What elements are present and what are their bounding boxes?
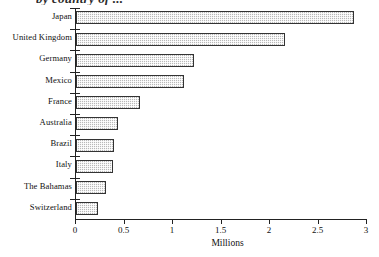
x-axis-title: Millions — [0, 238, 379, 248]
y-axis-tick — [70, 178, 80, 179]
y-axis-tick — [70, 8, 80, 9]
bar — [76, 33, 285, 46]
x-axis-tick-label: 2 — [249, 225, 289, 235]
bar-row: Brazil — [0, 135, 379, 156]
bar — [76, 11, 354, 24]
x-axis-tick — [75, 219, 76, 224]
y-axis-tick — [70, 93, 80, 94]
bar — [76, 96, 140, 109]
y-axis-tick — [70, 114, 80, 115]
bar-row: The Bahamas — [0, 178, 379, 199]
x-axis-title-label: Millions — [211, 238, 243, 248]
x-axis-tick — [318, 219, 319, 224]
bar — [76, 117, 118, 130]
y-axis-tick — [70, 135, 80, 136]
bar-row: Mexico — [0, 72, 379, 93]
category-label: Germany — [0, 53, 72, 64]
bar — [76, 54, 194, 67]
chart-title: by country of ... — [36, 0, 336, 5]
category-label: Switzerland — [0, 202, 72, 213]
bar-row: Italy — [0, 156, 379, 177]
x-axis-tick-label: 1.5 — [201, 225, 241, 235]
category-label: Australia — [0, 117, 72, 128]
bar — [76, 139, 114, 152]
bar-row: Australia — [0, 114, 379, 135]
bar-row: United Kingdom — [0, 29, 379, 50]
category-label: Japan — [0, 11, 72, 22]
x-axis-tick-label: 2.5 — [298, 225, 338, 235]
bar — [76, 75, 184, 88]
bar — [76, 160, 113, 173]
bar-row: France — [0, 93, 379, 114]
y-axis-tick — [70, 199, 80, 200]
bar-chart: by country of ... JapanUnited KingdomGer… — [0, 0, 379, 257]
x-axis-tick-label: 1 — [152, 225, 192, 235]
y-axis-tick — [70, 72, 80, 73]
x-axis-tick-label: 0.5 — [104, 225, 144, 235]
plot-area: JapanUnited KingdomGermanyMexicoFranceAu… — [0, 8, 379, 220]
bar-row: Switzerland — [0, 199, 379, 220]
category-label: France — [0, 96, 72, 107]
bar-row: Japan — [0, 8, 379, 29]
x-axis-tick — [221, 219, 222, 224]
bar — [76, 202, 98, 215]
y-axis-tick — [70, 50, 80, 51]
y-axis-tick — [70, 29, 80, 30]
x-axis-tick-label: 3 — [346, 225, 379, 235]
x-axis-tick — [366, 219, 367, 224]
category-label: United Kingdom — [0, 32, 72, 43]
category-label: Mexico — [0, 75, 72, 86]
category-label: The Bahamas — [0, 181, 72, 192]
x-axis-tick — [269, 219, 270, 224]
x-axis-tick — [172, 219, 173, 224]
y-axis-tick — [70, 156, 80, 157]
source-note — [173, 252, 373, 257]
category-label: Italy — [0, 159, 72, 170]
bar — [76, 181, 106, 194]
category-label: Brazil — [0, 138, 72, 149]
x-axis-tick-label: 0 — [55, 225, 95, 235]
x-axis-tick — [124, 219, 125, 224]
bar-row: Germany — [0, 50, 379, 71]
